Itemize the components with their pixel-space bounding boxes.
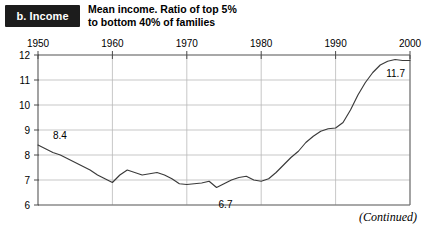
y-axis-tick-labels: 6789101112 xyxy=(19,50,31,211)
value-label: 6.7 xyxy=(219,199,233,210)
x-tick-label: 1960 xyxy=(101,38,124,49)
x-tick-label: 1980 xyxy=(250,38,273,49)
chart-title: Mean income. Ratio of top 5% to bottom 4… xyxy=(88,3,338,28)
panel-label-text: b. Income xyxy=(5,5,80,27)
value-label: 11.7 xyxy=(386,68,405,79)
chart-title-line-1: Mean income. Ratio of top 5% xyxy=(88,3,338,16)
x-tick-label: 2000 xyxy=(399,38,422,49)
horizontal-gridlines xyxy=(38,55,410,205)
y-tick-label: 12 xyxy=(19,50,31,61)
y-tick-label: 6 xyxy=(24,200,30,211)
continued-note: (Continued) xyxy=(359,210,417,225)
data-value-labels: 8.46.711.7 xyxy=(53,68,405,210)
y-tick-label: 10 xyxy=(19,100,31,111)
figure-panel: b. Income Mean income. Ratio of top 5% t… xyxy=(0,0,425,230)
y-tick-label: 8 xyxy=(24,150,30,161)
data-series-line xyxy=(38,60,410,188)
x-tick-label: 1990 xyxy=(324,38,347,49)
panel-label-badge: b. Income xyxy=(5,5,80,27)
x-axis-tick-labels: 195019601970198019902000 xyxy=(27,38,422,49)
y-tick-label: 9 xyxy=(24,125,30,136)
x-tick-label: 1970 xyxy=(176,38,199,49)
y-tick-label: 7 xyxy=(24,175,30,186)
y-tick-label: 11 xyxy=(20,75,31,86)
x-tick-label: 1950 xyxy=(27,38,50,49)
chart-title-line-2: to bottom 40% of families xyxy=(88,16,338,29)
line-chart: 195019601970198019902000 6789101112 8.46… xyxy=(0,30,425,210)
value-label: 8.4 xyxy=(53,130,67,141)
